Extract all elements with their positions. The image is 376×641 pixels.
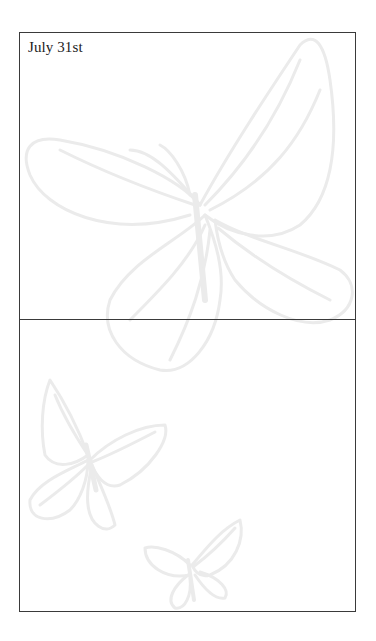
date-label: July 31st bbox=[28, 39, 83, 56]
section-divider bbox=[19, 319, 356, 320]
page-frame bbox=[19, 32, 356, 612]
journal-page: July 31st bbox=[0, 0, 376, 641]
